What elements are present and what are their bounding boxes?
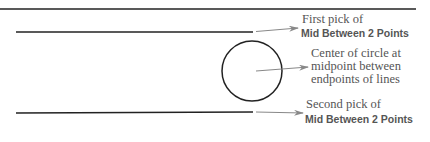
- midpoint-circle: [222, 41, 282, 101]
- first-pick-arrow: [256, 28, 298, 32]
- first-pick-label-line2: Mid Between 2 Points: [301, 27, 409, 39]
- second-pick-label-line2: Mid Between 2 Points: [305, 113, 413, 125]
- center-label-line3: endpoints of lines: [311, 73, 400, 85]
- first-pick-label-line1: First pick of: [302, 13, 363, 25]
- second-pick-arrow: [256, 112, 303, 113]
- center-label-line1: Center of circle at: [311, 47, 401, 59]
- center-label-line2: midpoint between: [311, 60, 401, 72]
- second-pick-label-line1: Second pick of: [306, 98, 381, 110]
- diagram-canvas: First pick of Mid Between 2 Points Cente…: [0, 0, 430, 142]
- second-line: [16, 112, 253, 113]
